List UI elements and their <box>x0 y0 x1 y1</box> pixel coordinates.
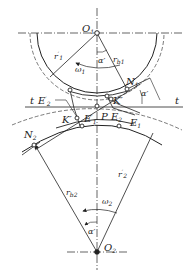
label-k-left: K′ <box>61 114 72 125</box>
point-n1 <box>125 87 129 91</box>
label-e2-prime: E′2 <box>37 95 51 107</box>
label-t-left: t <box>30 95 35 106</box>
label-e1: E1 <box>129 117 141 129</box>
point-o1 <box>95 31 100 36</box>
alpha-top-arc <box>97 50 107 52</box>
point-e2 <box>117 124 121 128</box>
label-omega1: ω1 <box>75 65 85 75</box>
point-k-left <box>75 116 79 120</box>
right-radial <box>150 78 160 100</box>
point-o2 <box>95 250 100 255</box>
point-p <box>95 104 99 108</box>
label-p: P <box>100 111 108 122</box>
label-alpha-right: α′ <box>141 89 148 98</box>
alpha-bottom-arc <box>85 222 97 225</box>
label-e1-prime: E′1 <box>83 113 97 125</box>
gear-mesh-diagram: O1 r′1 rb1 ω1 α′ N1 α′ K′ t t E′2 K′ E′1… <box>0 0 193 274</box>
label-rb1: rb1 <box>113 55 125 65</box>
label-k-right: K′ <box>112 95 123 106</box>
label-t-right: t <box>175 95 180 106</box>
point-upper-left <box>68 88 72 92</box>
label-o2: O2 <box>104 242 116 254</box>
omega2-arrow <box>83 209 117 213</box>
label-r1-prime: r′1 <box>54 50 63 61</box>
label-e2: E2 <box>110 111 122 123</box>
label-rb2: rb2 <box>66 188 78 198</box>
point-n2 <box>32 143 36 147</box>
point-e1-prime <box>80 124 84 128</box>
label-omega2: ω2 <box>102 197 113 207</box>
label-o1: O1 <box>82 23 94 35</box>
gear2-pitch-circle <box>22 125 162 152</box>
label-n2: N2 <box>23 129 37 141</box>
label-alpha-bottom: α′ <box>88 227 95 236</box>
label-r2-prime: r′2 <box>118 168 127 179</box>
label-alpha-top: α′ <box>98 56 105 65</box>
point-upper-right <box>105 94 109 98</box>
r2-prime-line <box>97 133 153 252</box>
